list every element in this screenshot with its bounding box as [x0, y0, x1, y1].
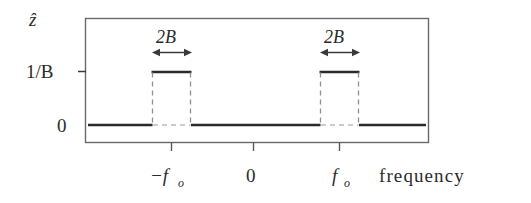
y-tick-label-zero: 0: [57, 115, 67, 136]
y-tick-label-1overB: 1/B: [26, 61, 53, 82]
y-axis-title: ẑ: [28, 9, 37, 30]
x-tick-label-minus-f0-main: −f: [150, 165, 171, 186]
right-width-arrow: [320, 49, 360, 56]
annotation-2b-left: 2B: [156, 27, 176, 47]
x-tick-label-f0-sub: o: [344, 176, 350, 190]
figure-container: ẑ 1/B 0 −f o 0 f o frequency 2B 2B: [0, 0, 531, 203]
left-width-arrow: [152, 49, 192, 56]
x-tick-label-minus-f0-sub: o: [178, 176, 184, 190]
x-tick-label-zero: 0: [246, 165, 256, 186]
x-tick-label-minus-f0: −f o: [150, 165, 184, 190]
x-axis-title: frequency: [379, 165, 465, 186]
annotation-2b-right: 2B: [324, 27, 344, 47]
spectrum-plot-svg: ẑ 1/B 0 −f o 0 f o frequency 2B 2B: [0, 0, 531, 203]
x-tick-label-f0: f o: [332, 165, 350, 190]
x-tick-label-f0-main: f: [332, 165, 340, 186]
